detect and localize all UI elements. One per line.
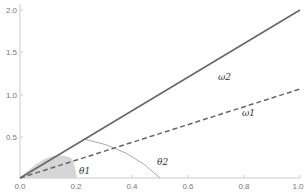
x-tick-label: 0.6: [182, 182, 194, 191]
x-tick-label: 0.2: [70, 182, 82, 191]
y-tick-label: 0.5: [6, 133, 18, 142]
theta2-label: θ2: [157, 157, 168, 167]
chart: 0.5 1.0 1.5 2.0 0.0 0.2 0.4 0.6 0.8 1.0 …: [0, 0, 308, 193]
y-tick-label: 1.5: [6, 48, 18, 57]
y-tick-label: 2.0: [6, 6, 18, 15]
omega2-label: ω2: [218, 72, 231, 82]
x-tick-label: 1.0: [292, 182, 304, 191]
x-tick-label: 0.4: [126, 182, 138, 191]
y-tick-label: 1.0: [6, 91, 18, 100]
omega2-line: [20, 10, 300, 178]
theta1-label: θ1: [79, 166, 90, 176]
omega1-label: ω1: [242, 108, 255, 118]
x-tick-label: 0.0: [14, 182, 26, 191]
x-tick-label: 0.8: [238, 182, 250, 191]
